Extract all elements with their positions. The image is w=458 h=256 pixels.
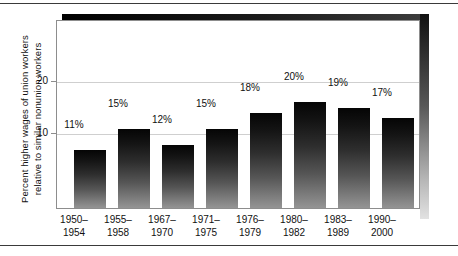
bar-value-1967-1970: 12% [146, 114, 178, 125]
x-tick-line-1: 1990– [362, 214, 402, 227]
bar-1950-1954[interactable] [74, 150, 106, 208]
bar-1980-1982[interactable] [294, 102, 326, 208]
y-axis-title-line-1: Percent higher wages of union workers [19, 19, 32, 219]
x-tick-line-1: 1980– [274, 214, 314, 227]
x-tick-1976-1979: 1976– 1979 [230, 214, 270, 239]
y-axis-title: Percent higher wages of union workers re… [19, 19, 49, 219]
x-tick-line-2: 1970 [142, 227, 182, 240]
x-tick-line-1: 1983– [318, 214, 358, 227]
x-tick-line-1: 1955– [98, 214, 138, 227]
x-tick-line-2: 1954 [54, 227, 94, 240]
bar-value-1976-1979: 18% [234, 82, 266, 93]
x-tick-1971-1975: 1971– 1975 [186, 214, 226, 239]
y-tick-label-20: 20 [22, 76, 48, 86]
bar-1967-1970[interactable] [162, 145, 194, 208]
x-tick-1950-1954: 1950– 1954 [54, 214, 94, 239]
plot-shadow-right [420, 14, 429, 219]
x-tick-line-2: 1979 [230, 227, 270, 240]
bar-value-1971-1975: 15% [190, 98, 222, 109]
bar-1971-1975[interactable] [206, 129, 238, 208]
bars-layer [56, 20, 420, 209]
bar-value-1983-1989: 19% [322, 77, 354, 88]
bar-value-1955-1958: 15% [102, 98, 134, 109]
x-tick-line-2: 1975 [186, 227, 226, 240]
x-tick-1980-1982: 1980– 1982 [274, 214, 314, 239]
x-tick-line-2: 1958 [98, 227, 138, 240]
bar-1983-1989[interactable] [338, 108, 370, 208]
x-tick-line-1: 1967– [142, 214, 182, 227]
x-tick-1983-1989: 1983– 1989 [318, 214, 358, 239]
figure: Percent higher wages of union workers re… [0, 0, 458, 256]
x-tick-line-2: 1989 [318, 227, 358, 240]
bar-1990-2000[interactable] [382, 118, 414, 208]
bar-value-1950-1954: 11% [58, 119, 90, 130]
x-tick-line-1: 1950– [54, 214, 94, 227]
x-tick-1967-1970: 1967– 1970 [142, 214, 182, 239]
bar-1955-1958[interactable] [118, 129, 150, 208]
page-rule-top [0, 3, 458, 4]
x-tick-1955-1958: 1955– 1958 [98, 214, 138, 239]
bar-value-1990-2000: 17% [366, 87, 398, 98]
x-tick-line-1: 1976– [230, 214, 270, 227]
bar-1976-1979[interactable] [250, 113, 282, 208]
x-tick-line-1: 1971– [186, 214, 226, 227]
x-tick-line-2: 2000 [362, 227, 402, 240]
x-tick-1990-2000: 1990– 2000 [362, 214, 402, 239]
x-tick-line-2: 1982 [274, 227, 314, 240]
page-rule-bottom [0, 245, 458, 246]
y-tick-label-10: 10 [22, 128, 48, 138]
bar-value-1980-1982: 20% [278, 71, 310, 82]
y-axis-title-line-2: relative to similar nonunion workers [32, 19, 45, 219]
